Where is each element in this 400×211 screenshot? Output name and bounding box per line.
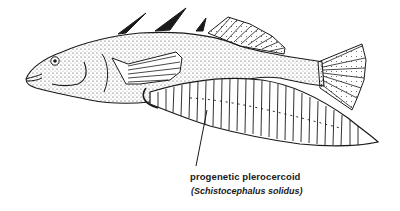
label-secondary: (Schistocephalus solidus): [191, 186, 303, 196]
dorsal-spines: [118, 8, 206, 34]
caudal-fin: [318, 44, 366, 110]
label-primary: progenetic plerocercoid: [190, 171, 301, 182]
eye: [51, 57, 59, 65]
